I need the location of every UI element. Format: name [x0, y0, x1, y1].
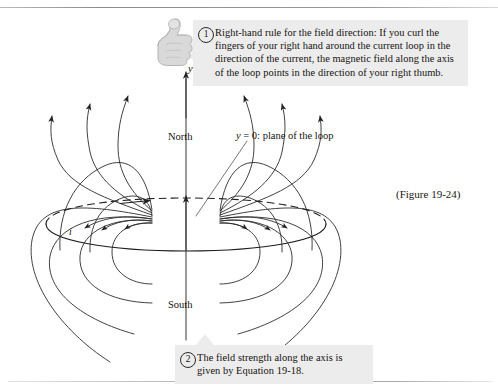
north-label: North — [168, 131, 193, 142]
figure-page: 1 Right-hand rule for the field directio… — [0, 0, 498, 391]
field-lines-left — [31, 96, 152, 362]
y-axis-label: y — [188, 63, 193, 74]
south-label: South — [168, 299, 193, 310]
callout-right-hand-rule: 1 Right-hand rule for the field directio… — [193, 20, 468, 86]
callout-2-text: The field strength along the axis is giv… — [197, 351, 365, 377]
callout-field-strength: 2 The field strength along the axis is g… — [175, 345, 373, 384]
thumbs-up-icon — [158, 19, 192, 66]
plane-of-loop-label: y = 0: plane of the loop — [236, 130, 334, 141]
callout-1-text: Right-hand rule for the field direction:… — [215, 26, 460, 79]
callout-2-tail — [196, 334, 214, 345]
plane-leader-line — [196, 141, 247, 216]
callout-1-number: 1 — [198, 27, 214, 43]
callout-2-number: 2 — [180, 352, 196, 368]
current-label: i — [69, 226, 72, 237]
figure-caption: (Figure 19-24) — [396, 188, 460, 200]
plane-label-text: = 0: plane of the loop — [241, 130, 334, 141]
